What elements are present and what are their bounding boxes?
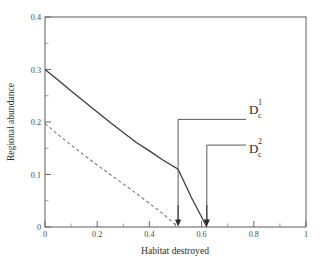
- annotation-label-dc1: D c 1: [249, 98, 262, 120]
- x-tick-label: 1: [304, 230, 308, 239]
- dc2-base: D: [249, 141, 258, 156]
- annotation-leaders: [178, 119, 246, 221]
- y-tick-label: 0.3: [31, 66, 41, 75]
- x-axis-title: Habitat destroyed: [141, 245, 209, 256]
- curve-species-2: [45, 124, 178, 227]
- dc1-subscript: c: [258, 111, 262, 120]
- y-tick-label: 0.2: [31, 118, 41, 127]
- dc2-subscript: c: [258, 150, 262, 159]
- dc2-superscript: 2: [258, 137, 262, 146]
- plot-frame: [45, 17, 306, 227]
- y-tick-label: 0: [37, 223, 41, 232]
- x-tick-label: 0.8: [249, 230, 259, 239]
- leader-line-dc1: [178, 119, 246, 221]
- x-tick-label: 0: [43, 230, 47, 239]
- x-tick-label: 0.2: [92, 230, 102, 239]
- dc1-superscript: 1: [258, 98, 262, 107]
- curve-species-1: [45, 70, 207, 228]
- y-tick-label: 0.4: [31, 13, 41, 22]
- chart-figure: 0 0.2 0.4 0.6 0.8 1 0 0.1 0.2 0.3 0.4: [0, 0, 326, 267]
- y-axis-title: Regional abundance: [5, 83, 16, 161]
- chart-svg: 0 0.2 0.4 0.6 0.8 1 0 0.1 0.2 0.3 0.4: [0, 0, 326, 267]
- y-tick-labels: 0 0.1 0.2 0.3 0.4: [31, 13, 41, 232]
- x-tick-label: 0.4: [144, 230, 154, 239]
- y-axis-ticks: [45, 17, 51, 227]
- leader-line-dc2: [207, 145, 246, 222]
- dc1-base: D: [249, 102, 258, 117]
- x-tick-label: 0.6: [196, 230, 206, 239]
- y-tick-label: 0.1: [31, 171, 41, 180]
- annotation-label-dc2: D c 2: [249, 137, 262, 159]
- x-tick-labels: 0 0.2 0.4 0.6 0.8 1: [43, 230, 308, 239]
